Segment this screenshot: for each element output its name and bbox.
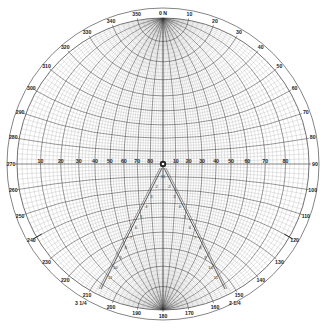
azimuth-label: 100 <box>308 187 317 193</box>
azimuth-label: 200 <box>107 304 116 310</box>
azimuth-label: 20 <box>212 18 218 24</box>
azimuth-label: 130 <box>275 259 284 265</box>
azimuth-label: 170 <box>185 310 194 316</box>
azimuth-label: 290 <box>16 109 25 115</box>
azimuth-label: 40 <box>258 44 264 50</box>
diagonal-tick-label: 10 <box>113 265 118 270</box>
azimuth-label: 30 <box>236 29 242 35</box>
stereonet-diagram: 3501020304050607080901001101201301401501… <box>0 0 325 331</box>
azimuth-label: 320 <box>61 44 70 50</box>
scale-left-label: 40 <box>92 158 98 164</box>
azimuth-label: 300 <box>27 85 36 91</box>
azimuth-label: 150 <box>235 292 244 298</box>
azimuth-label: 60 <box>292 85 298 91</box>
azimuth-label: 110 <box>302 213 310 219</box>
azimuth-label: 10 <box>187 11 193 17</box>
azimuth-label: 70 <box>303 109 309 115</box>
diagonal-tick-label: 7 <box>194 235 197 240</box>
azimuth-label: 280 <box>9 134 18 140</box>
scale-right-label: 10 <box>173 158 179 164</box>
azimuth-label: 270 <box>7 161 16 167</box>
scale-right-label: 20 <box>186 158 192 164</box>
azimuth-label: 310 <box>42 63 51 69</box>
azimuth-label: 210 <box>83 292 92 298</box>
scale-right-label: 30 <box>199 158 205 164</box>
diagonal-tick-label: 4 <box>178 204 181 209</box>
scale-left-label: 50 <box>107 158 113 164</box>
azimuth-label: 140 <box>256 277 265 283</box>
scale-left-label: 70 <box>134 158 140 164</box>
center-mark <box>160 161 166 167</box>
scale-right-label: 60 <box>244 158 250 164</box>
diagonal-tick-label: 10 <box>208 265 213 270</box>
scale-left-label: 10 <box>38 158 44 164</box>
diagonal-tick-label: 11 <box>108 275 113 280</box>
azimuth-label: 330 <box>83 29 92 35</box>
scale-left-label: 80 <box>147 158 153 164</box>
azimuth-label: 220 <box>61 277 70 283</box>
diagonal-tick-label: 11 <box>214 275 219 280</box>
azimuth-label: 50 <box>277 63 283 69</box>
scale-left-label: 20 <box>58 158 64 164</box>
azimuth-label: 350 <box>132 11 141 17</box>
azimuth-label: 80 <box>310 134 316 140</box>
diagonal-tick-label: 3 <box>173 194 176 199</box>
diagonal-tick-label: 4 <box>145 204 148 209</box>
left-diagonal-marker: 3 1/4 <box>75 300 87 306</box>
scale-right-label: 80 <box>283 158 289 164</box>
north-marker: 0 N <box>159 10 167 16</box>
azimuth-label: 190 <box>132 310 141 316</box>
azimuth-label: 250 <box>16 213 25 219</box>
azimuth-label: 260 <box>9 187 18 193</box>
azimuth-label: 160 <box>211 304 220 310</box>
diagonal-tick-label: 3 <box>150 194 153 199</box>
scale-left-label: 30 <box>76 158 82 164</box>
scale-right-label: 40 <box>213 158 219 164</box>
diagonal-tick-label: 7 <box>130 235 133 240</box>
diagonal-tick-label: 2 <box>168 184 171 189</box>
scale-left-label: 60 <box>121 158 127 164</box>
azimuth-label: 340 <box>107 18 116 24</box>
scale-right-label: 50 <box>228 158 234 164</box>
azimuth-label: 90 <box>312 161 318 167</box>
right-diagonal-marker: 2 1/4 <box>229 300 241 306</box>
azimuth-label: 230 <box>42 259 51 265</box>
azimuth-label: 180 <box>159 313 168 319</box>
scale-right-label: 70 <box>262 158 268 164</box>
